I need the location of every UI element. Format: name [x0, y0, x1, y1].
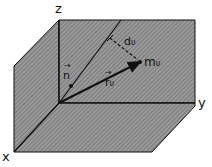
x-label: x	[2, 150, 10, 163]
m-label: mυ	[144, 56, 160, 68]
n-label: → n	[63, 70, 70, 81]
y-label: y	[198, 96, 206, 109]
n-point	[69, 84, 73, 88]
r-label: → rυ	[105, 77, 114, 88]
m-point	[138, 60, 142, 64]
back-wall	[59, 20, 195, 103]
d-label: dυ	[124, 36, 136, 47]
z-label: z	[55, 2, 62, 15]
